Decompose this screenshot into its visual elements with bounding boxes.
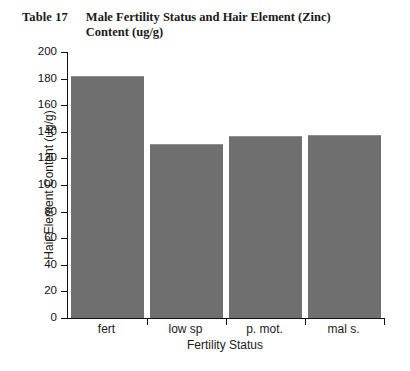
y-axis-tick: 100 [61,185,68,186]
y-axis-tick: 120 [61,158,68,159]
y-axis-tick: 0 [61,318,68,319]
y-axis-tick-label: 100 [38,178,57,190]
y-axis-tick: 20 [61,291,68,292]
y-axis-tick: 160 [61,105,68,106]
y-axis-tick: 140 [61,132,68,133]
y-axis-tick-label: 160 [38,98,57,110]
y-axis-tick-label: 80 [44,205,57,217]
y-axis-tick-label: 120 [38,151,57,163]
y-axis-tick-label: 0 [51,311,57,323]
y-axis-tick-label: 40 [44,258,57,270]
y-axis-tick-label: 140 [38,125,57,137]
bar [71,76,144,318]
x-axis-title: Fertility Status [67,338,383,352]
plot-area: 020406080100120140160180200 [67,52,384,319]
bar-series [68,52,384,318]
y-axis-tick: 40 [61,265,68,266]
y-axis-tick-label: 20 [44,284,57,296]
x-axis-category-label: fert [98,322,115,336]
bar-chart: Hair Element Content (ug/g) 020406080100… [0,0,410,371]
bar [150,144,223,318]
x-axis-category-label: p. mot. [246,322,283,336]
y-axis-tick: 80 [61,212,68,213]
y-axis-tick-label: 180 [38,72,57,84]
y-axis-tick-label: 200 [38,45,57,57]
bar [308,135,381,318]
y-axis-tick-label: 60 [44,231,57,243]
x-axis-category-label: mal s. [327,322,359,336]
chart-page: Table 17 Male Fertility Status and Hair … [0,0,410,371]
x-axis-category-label: low sp [168,322,202,336]
x-axis-tick [384,318,385,325]
y-axis-tick: 60 [61,238,68,239]
y-axis-tick: 200 [61,52,68,53]
bar [229,136,302,318]
y-axis-tick: 180 [61,79,68,80]
